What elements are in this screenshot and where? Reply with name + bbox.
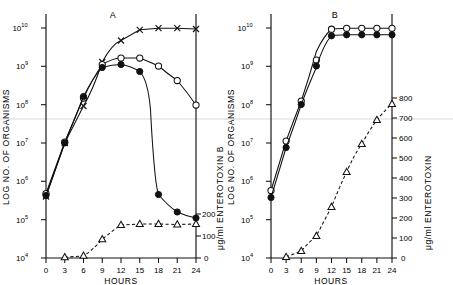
x-tick-6: 6 [299, 266, 304, 275]
x-tick-18: 18 [357, 266, 366, 275]
right-tick-400: 400 [399, 174, 413, 183]
series-a-filled-line [46, 65, 196, 219]
panel-a-left-axis-label: LOG NO. OF ORGANISMS [1, 89, 11, 205]
series-b-toxin-markers [283, 100, 396, 259]
svg-text:106: 106 [241, 175, 253, 186]
svg-text:1010: 1010 [12, 22, 27, 33]
right-tick-700: 700 [399, 114, 413, 123]
series-a-open-markers [43, 55, 199, 197]
x-tick-24: 24 [388, 266, 397, 275]
series-a-total-line [46, 28, 196, 196]
panel-a-left-tick-labels: 104 105 106 107 108 109 1010 [12, 22, 28, 263]
svg-text:104: 104 [241, 252, 253, 263]
svg-text:107: 107 [16, 137, 28, 148]
panel-a-x-tick-labels: 0 3 6 9 12 15 18 21 24 [44, 266, 201, 275]
panel-b-right-tick-labels: 0 100 200 300 400 500 600 700 800 [399, 94, 413, 263]
svg-text:105: 105 [241, 214, 253, 225]
panel-a-x-ticks [46, 258, 196, 263]
series-b-toxin-line [286, 104, 392, 257]
x-tick-24: 24 [192, 266, 201, 275]
svg-text:107: 107 [241, 137, 253, 148]
x-tick-9: 9 [314, 266, 319, 275]
right-tick-500: 500 [399, 154, 413, 163]
svg-text:109: 109 [241, 60, 253, 71]
svg-text:108: 108 [16, 99, 28, 110]
x-tick-3: 3 [284, 266, 289, 275]
panel-b-left-axis-label: LOG NO. OF ORGANISMS [226, 89, 236, 205]
right-tick-600: 600 [399, 134, 413, 143]
panel-a: A 104 105 106 107 108 [0, 0, 228, 285]
x-tick-15: 15 [135, 266, 144, 275]
right-tick-800: 800 [399, 94, 413, 103]
panel-a-right-tick-labels: 0 100 200 [202, 210, 216, 263]
x-tick-15: 15 [342, 266, 351, 275]
panel-b: B 104 105 106 107 108 109 1010 [225, 0, 453, 285]
svg-text:109: 109 [16, 60, 28, 71]
series-b-filled-line [271, 35, 392, 198]
series-a-toxin-markers [61, 220, 199, 259]
series-a-toxin-line [65, 224, 196, 257]
x-tick-6: 6 [81, 266, 86, 275]
right-tick-200: 200 [202, 210, 216, 219]
x-tick-18: 18 [154, 266, 163, 275]
panel-b-canvas: B 104 105 106 107 108 109 1010 [225, 0, 453, 285]
series-b-filled-markers [268, 32, 395, 201]
series-a-filled-markers [43, 61, 199, 221]
panel-b-right-ticks [392, 98, 397, 258]
panel-a-right-axis-label: μg/ml ENTEROTOXIN B [215, 146, 225, 250]
panel-b-title: B [332, 10, 339, 20]
panel-a-canvas: A 104 105 106 107 108 [0, 0, 228, 285]
series-a-open-line [46, 58, 196, 194]
panel-b-right-axis-label: μg/ml ENTEROTOXIN [423, 155, 433, 250]
svg-text:106: 106 [16, 175, 28, 186]
right-tick-200: 200 [399, 214, 413, 223]
svg-text:105: 105 [16, 214, 28, 225]
series-b-open-markers [268, 25, 395, 193]
x-tick-12: 12 [327, 266, 336, 275]
svg-text:108: 108 [241, 99, 253, 110]
x-tick-21: 21 [173, 266, 182, 275]
panel-a-left-ticks [41, 28, 46, 258]
series-a-total-markers [43, 25, 199, 199]
panel-a-x-axis-label: HOURS [104, 276, 138, 285]
svg-text:1010: 1010 [237, 22, 252, 33]
right-tick-100: 100 [399, 234, 413, 243]
panel-b-x-axis-label: HOURS [314, 276, 348, 285]
x-tick-9: 9 [100, 266, 105, 275]
right-tick-0: 0 [204, 254, 209, 263]
panel-a-title: A [110, 10, 117, 20]
right-tick-100: 100 [202, 232, 216, 241]
x-tick-0: 0 [44, 266, 49, 275]
panel-b-left-ticks [266, 28, 271, 258]
right-tick-300: 300 [399, 194, 413, 203]
x-tick-3: 3 [63, 266, 68, 275]
right-tick-0: 0 [401, 254, 406, 263]
svg-text:104: 104 [16, 252, 28, 263]
series-b-open-line [271, 28, 392, 190]
x-tick-21: 21 [372, 266, 381, 275]
panel-b-left-tick-labels: 104 105 106 107 108 109 1010 [237, 22, 253, 263]
x-tick-12: 12 [117, 266, 126, 275]
panel-b-x-tick-labels: 0 3 6 9 12 15 18 21 24 [269, 266, 397, 275]
x-tick-0: 0 [269, 266, 274, 275]
figure-root: A 104 105 106 107 108 [0, 0, 453, 285]
